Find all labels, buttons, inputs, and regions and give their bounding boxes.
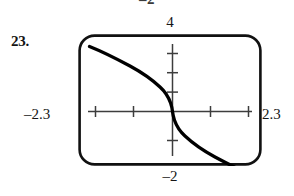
label-x-max: 2.3 (262, 106, 281, 123)
label-y-min: –2 (145, 168, 195, 185)
viewing-window-frame (78, 34, 262, 166)
label-y-max: 4 (145, 14, 195, 31)
figure-graphing-window: 4 –2 –2.3 2.3 (0, 0, 294, 196)
label-x-min: –2.3 (24, 106, 50, 123)
